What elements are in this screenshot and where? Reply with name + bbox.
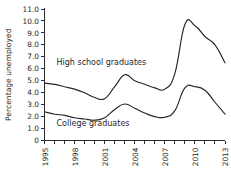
series-lines [45, 20, 226, 121]
y-tick-label: 1.0 [27, 124, 39, 133]
chart-container: 01.02.03.04.05.06.07.08.09.010.011.0 199… [0, 0, 231, 173]
y-tick-label: 7.0 [27, 52, 39, 61]
y-axis: 01.02.03.04.05.06.07.08.09.010.011.0 [23, 5, 45, 146]
y-tick-label: 10.0 [23, 17, 40, 26]
y-tick-label: 4.0 [27, 88, 39, 97]
y-tick-label: 0 [34, 136, 39, 145]
x-tick-label: 1995 [41, 147, 50, 166]
series-label-high-school-graduates: High school graduates [57, 58, 147, 67]
x-tick-label: 2010 [191, 147, 200, 166]
line-chart: 01.02.03.04.05.06.07.08.09.010.011.0 199… [0, 0, 231, 173]
x-tick-label: 1998 [71, 147, 80, 166]
y-tick-label: 8.0 [27, 40, 39, 49]
y-tick-label: 2.0 [27, 112, 39, 121]
x-axis: 1995199820012004200720102013 [41, 141, 231, 167]
y-tick-label: 9.0 [27, 29, 39, 38]
series-line-college-graduates [45, 85, 226, 120]
y-tick-label: 3.0 [27, 100, 39, 109]
x-tick-label: 2004 [131, 147, 140, 166]
y-axis-title: Percentage unemployed [4, 28, 13, 121]
y-tick-label: 6.0 [27, 64, 39, 73]
y-axis-title-text: Percentage unemployed [4, 28, 13, 121]
x-tick-label: 2001 [101, 147, 110, 166]
y-tick-label: 5.0 [27, 76, 39, 85]
x-tick-label: 2013 [221, 147, 230, 166]
x-tick-label: 2007 [161, 147, 170, 166]
y-tick-label: 11.0 [23, 5, 40, 14]
series-label-college-graduates: College graduates [57, 119, 130, 128]
